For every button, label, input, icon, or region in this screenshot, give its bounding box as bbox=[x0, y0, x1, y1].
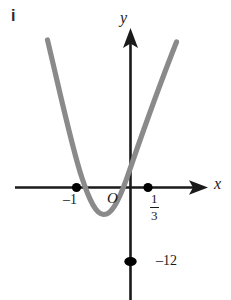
part-label: i bbox=[11, 8, 16, 24]
fraction-numerator: 1 bbox=[150, 192, 159, 208]
point-root-left bbox=[72, 183, 81, 192]
y-axis-label: y bbox=[120, 10, 127, 26]
y-intercept-label: –12 bbox=[156, 254, 177, 268]
x-intercept-left-label: –1 bbox=[63, 193, 77, 207]
x-intercept-right-label: 1 3 bbox=[150, 192, 159, 222]
parabola-plot bbox=[0, 0, 231, 300]
x-axis-label: x bbox=[214, 176, 221, 192]
point-y-intercept bbox=[124, 257, 136, 266]
origin-label: O bbox=[107, 191, 118, 206]
fraction-denominator: 3 bbox=[150, 208, 159, 223]
fraction-one-third: 1 3 bbox=[150, 192, 159, 222]
graph-figure: i y x O –1 1 3 –12 bbox=[0, 0, 231, 300]
